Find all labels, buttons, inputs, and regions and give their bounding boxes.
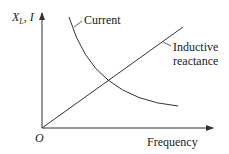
current-leader xyxy=(74,21,82,27)
reactance-leader xyxy=(163,42,171,46)
current-curve xyxy=(69,17,178,106)
x-axis-label: Frequency xyxy=(147,135,198,149)
reactance-diagram: XL, I Current Inductive reactance O Freq… xyxy=(0,0,229,154)
origin-label: O xyxy=(35,131,44,145)
current-label: Current xyxy=(84,13,121,27)
reactance-label-line2: reactance xyxy=(173,54,218,68)
reactance-label-line1: Inductive xyxy=(173,40,218,54)
inductive-reactance-line xyxy=(42,27,183,128)
y-axis-label: XL, I xyxy=(11,10,35,26)
